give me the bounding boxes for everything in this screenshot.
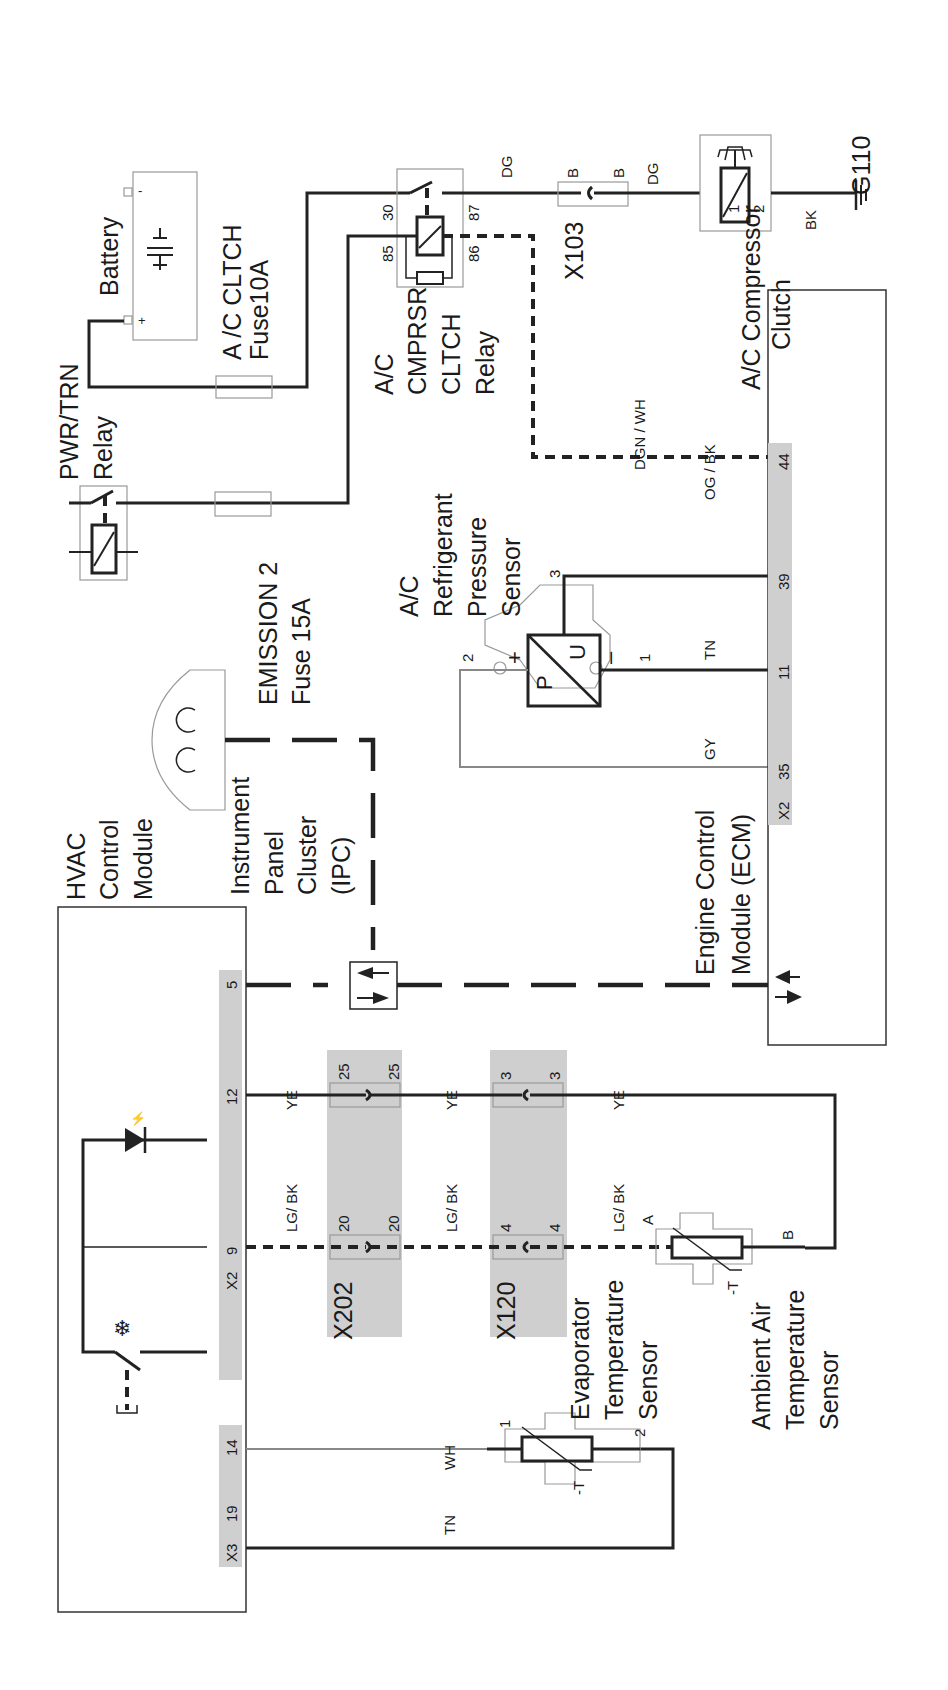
sensor-symbol-u: U — [565, 644, 590, 660]
sensor-pin-2: 2 — [459, 654, 476, 662]
ecm-pin-11: 11 — [775, 664, 792, 680]
relay-pin-30: 30 — [379, 204, 396, 221]
ac-compressor-clutch-relay — [397, 169, 475, 287]
wire-label-wh: WH — [441, 1445, 458, 1470]
wire-label-og-bk: OG / BK — [701, 444, 718, 500]
hvac-pin-5: 5 — [223, 981, 240, 989]
relay-pin-86: 86 — [465, 245, 482, 262]
wire-gy — [460, 670, 768, 767]
x103-pin-b-left: B — [564, 168, 581, 178]
ground-label-g110: G110 — [847, 136, 875, 195]
pressure-sensor-label-1: A/C — [395, 575, 423, 617]
pwr-trn-relay-label-1: PWR/TRN — [55, 363, 83, 480]
evap-label-2: Temperature — [600, 1280, 628, 1420]
relay-pin-87: 87 — [465, 204, 482, 221]
wire-emission — [116, 467, 348, 503]
relay-label-1: A/C — [370, 353, 398, 395]
hvac-connector-x3-label: X3 — [223, 1544, 240, 1562]
pressure-sensor-label-3: Pressure — [463, 517, 491, 617]
ipc-label-1: Instrument — [226, 777, 254, 895]
ambient-pin-b: B — [779, 1230, 796, 1240]
battery-pos-terminal: + — [138, 313, 146, 328]
wire-label-ye-3: YE — [610, 1090, 627, 1110]
ambient-ntc-symbol: -T — [724, 1281, 741, 1295]
ecm-label-1: Engine Control — [691, 810, 719, 975]
relay-label-2: CMPRSR — [403, 287, 431, 395]
pwr-trn-relay — [69, 486, 138, 580]
wire-label-bk: BK — [802, 210, 819, 230]
battery-label: Battery — [95, 216, 123, 296]
ambient-label-1: Ambient Air — [747, 1302, 775, 1430]
ipc-label-2: Panel — [260, 831, 288, 895]
ambient-label-3: Sensor — [815, 1351, 843, 1430]
pressure-sensor-label-4: Sensor — [497, 538, 525, 617]
snowflake-icon: ❄ — [113, 1316, 131, 1341]
ecm-data-arrows-icon — [775, 970, 802, 1004]
x202-pin-20-right: 20 — [385, 1215, 402, 1232]
ecm-pin-44: 44 — [775, 453, 792, 470]
ac-cltch-fuse-label-2: Fuse10A — [245, 260, 273, 360]
ecm-pin-35: 35 — [775, 763, 792, 780]
wiring-diagram: + - Battery A /C CLTCH Fuse10A 30 85 87 … — [0, 0, 948, 1690]
hvac-pin-14: 14 — [223, 1439, 240, 1456]
sensor-pin-1: 1 — [636, 654, 653, 662]
x120-pin-3-right: 3 — [546, 1072, 563, 1080]
ecm-pin-39: 39 — [775, 573, 792, 590]
sensor-symbol-p: P — [532, 675, 557, 690]
wire-label-lgbk-3: LG/ BK — [610, 1184, 627, 1232]
x103-pin-icon — [589, 187, 593, 199]
sensor-pin-3: 3 — [546, 570, 563, 578]
hvac-pin-9: 9 — [223, 1247, 240, 1255]
ipc-label-4: (IPC) — [327, 837, 355, 895]
relay-label-3: CLTCH — [437, 314, 465, 395]
hvac-pin-19: 19 — [223, 1505, 240, 1522]
hvac-control-module: ⚡ ❄ — [58, 907, 246, 1612]
battery-neg-terminal: - — [138, 183, 142, 198]
ambient-label-2: Temperature — [781, 1290, 809, 1430]
relay-label-4: Relay — [471, 331, 499, 395]
wire-og-bk — [564, 576, 768, 635]
x202-pin-25-right: 25 — [385, 1063, 402, 1080]
wire-label-dg-1: DG — [498, 156, 515, 179]
hvac-connector-x2 — [219, 970, 242, 1380]
wire-label-dg-2: DG — [644, 163, 661, 186]
hvac-connector-x2-label: X2 — [223, 1272, 240, 1290]
x103-pin-b-right: B — [610, 168, 627, 178]
x202-pin-20-left: 20 — [335, 1215, 352, 1232]
sensor-plus: + — [502, 651, 527, 664]
x120-pin-4-right: 4 — [546, 1224, 563, 1232]
wire-label-ye-2: YE — [443, 1090, 460, 1110]
x120-label: X120 — [492, 1282, 520, 1340]
led-icon — [125, 1128, 145, 1152]
x202-pin-25-left: 25 — [335, 1063, 352, 1080]
ambient-air-temperature-sensor — [656, 1213, 805, 1284]
evap-label-1: Evaporator — [566, 1298, 594, 1420]
wire-label-tn-hvac: TN — [441, 1515, 458, 1535]
wire-label-lgbk-2: LG/ BK — [443, 1184, 460, 1232]
clutch-label-1: A/C Compressor — [737, 205, 765, 390]
ambient-pin-a: A — [639, 1215, 656, 1225]
evap-ntc-symbol: -T — [570, 1481, 587, 1495]
ecm-label-2: Module (ECM) — [727, 814, 755, 975]
evap-pin-1: 1 — [496, 1420, 513, 1428]
x120-pin-4-left: 4 — [497, 1224, 514, 1232]
wire-ye-3 — [530, 1095, 835, 1248]
hvac-pin-12: 12 — [223, 1088, 240, 1105]
ecm-connector-x2-label: X2 — [775, 802, 792, 820]
wire-label-tn-ecm: TN — [701, 640, 718, 660]
ac-cltch-fuse-label-1: A /C CLTCH — [218, 224, 246, 360]
wire-label-lgbk-1: LG/ BK — [283, 1184, 300, 1232]
wire-label-ye-1: YE — [283, 1090, 300, 1110]
led-light-icon: ⚡ — [130, 1111, 146, 1127]
relay-pin-85: 85 — [379, 245, 396, 262]
pwr-trn-relay-label-2: Relay — [89, 416, 117, 480]
ipc-label-3: Cluster — [293, 816, 321, 895]
evap-label-3: Sensor — [634, 1341, 662, 1420]
x120-pin-3-left: 3 — [497, 1072, 514, 1080]
emission-fuse-label-2: Fuse 15A — [287, 598, 315, 705]
wire-tn-hvac — [246, 1449, 673, 1548]
wire-label-gy: GY — [701, 738, 718, 760]
hvac-label-1: HVAC — [62, 832, 90, 900]
hvac-label-3: Module — [129, 818, 157, 900]
evap-pin-2: 2 — [631, 1429, 648, 1437]
